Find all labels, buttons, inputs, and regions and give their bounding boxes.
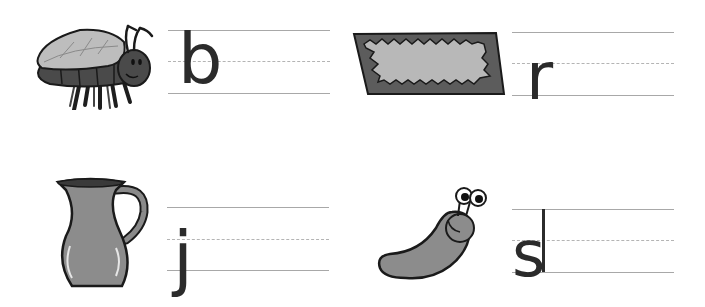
letter-b: b — [178, 24, 222, 94]
top-line — [512, 209, 674, 210]
writing-lines-r[interactable]: r — [512, 32, 674, 96]
traced-vertical-stroke — [542, 209, 545, 272]
top-line — [512, 32, 674, 33]
letter-r: r — [526, 44, 553, 110]
letter-s: s — [512, 222, 545, 286]
jug-picture-icon — [50, 176, 150, 294]
writing-lines-b[interactable]: b — [168, 30, 330, 94]
writing-lines-s[interactable]: s — [512, 209, 674, 273]
rug-picture-icon — [352, 30, 506, 96]
top-line — [167, 207, 329, 208]
fly-picture-icon — [30, 18, 156, 110]
slug-picture-icon — [376, 182, 494, 282]
writing-lines-j[interactable]: j — [167, 207, 329, 271]
letter-j: j — [173, 221, 193, 293]
